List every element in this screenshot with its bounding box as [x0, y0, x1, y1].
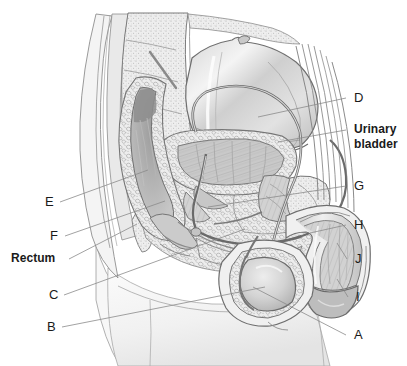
label-g: G	[354, 178, 364, 193]
label-d: D	[354, 90, 364, 105]
label-e: E	[45, 194, 54, 209]
anatomy-figure: DUrinary bladderGHJIAEFRectumCB	[0, 0, 407, 366]
label-i: I	[356, 289, 360, 304]
label-j: J	[355, 251, 362, 266]
label-c: C	[49, 287, 59, 302]
label-f: F	[50, 228, 58, 243]
label-h: H	[354, 217, 364, 232]
label-ub: Urinary bladder	[354, 122, 398, 152]
label-b: B	[47, 319, 56, 334]
label-re: Rectum	[11, 251, 55, 266]
bulbourethral-gland	[191, 228, 201, 236]
label-a: A	[354, 327, 363, 342]
anatomy-illustration	[0, 0, 407, 366]
